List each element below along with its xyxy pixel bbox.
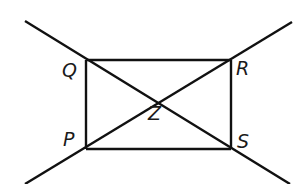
label-P: P: [63, 128, 75, 150]
label-Q: Q: [62, 59, 77, 81]
label-R: R: [236, 57, 249, 79]
label-S: S: [237, 130, 249, 152]
label-Z: Z: [147, 102, 162, 124]
rectangle-diagonals-diagram: Q R P Z S: [0, 0, 305, 184]
